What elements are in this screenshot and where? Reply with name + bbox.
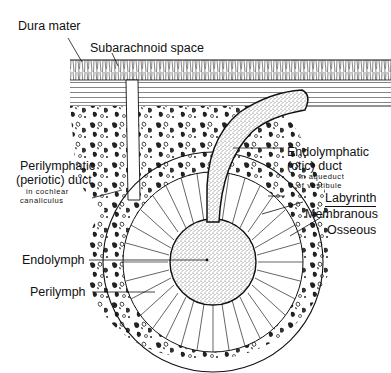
label-endolymph: Endolymph (22, 254, 85, 267)
label-endolymphatic-duct: Endolymphatic (287, 146, 369, 159)
label-osseous: Osseous (327, 224, 376, 237)
label-subarachnoid-space: Subarachnoid space (90, 42, 204, 55)
labyrinth-diagram: Dura mater Subarachnoid space Endolympha… (0, 0, 391, 373)
label-perilymphatic-sub1: in cochlear (26, 188, 69, 196)
dura-layer (70, 80, 391, 106)
label-labyrinth: Labyrinth (325, 192, 376, 207)
label-perilymphatic-duct: Perilymphatic (20, 160, 95, 173)
label-endolymphatic-sub2: of vestibule (297, 182, 342, 190)
label-endolymphatic-sub1: in aqueduct (299, 173, 344, 181)
endolymph-sac (170, 219, 256, 305)
label-perilymphatic-sub2: canaliculus (20, 197, 64, 205)
subarachnoid-region (70, 60, 391, 80)
label-perilymph: Perilymph (30, 286, 86, 299)
label-perilymphatic-duct-2: (periotic) duct (16, 174, 92, 187)
label-endolymphatic-duct-2: (otic) duct (287, 160, 342, 173)
label-membranous: Membranous (305, 208, 378, 221)
label-dura-mater: Dura mater (18, 20, 81, 33)
